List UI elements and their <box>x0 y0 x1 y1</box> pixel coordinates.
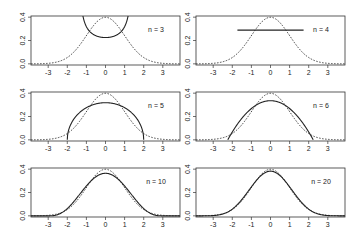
x-tick-label: 1 <box>288 69 292 76</box>
x-tick-label: -3 <box>210 221 216 228</box>
x-tick-label: 2 <box>307 69 311 76</box>
x-tick-label: 3 <box>326 145 330 152</box>
y-tick-label: 0.2 <box>184 36 191 46</box>
x-tick-label: -1 <box>248 69 254 76</box>
x-tick-label: 3 <box>326 221 330 228</box>
y-tick-label: 0.4 <box>19 164 26 174</box>
normal-density-curve <box>31 17 180 64</box>
plot-frame <box>31 92 180 141</box>
panel-label: n = 4 <box>313 26 329 33</box>
x-tick-label: -1 <box>248 221 254 228</box>
figure: -3-2-101230.00.20.4n = 3-3-2-101230.00.2… <box>0 0 363 239</box>
x-tick-label: 3 <box>161 69 165 76</box>
panel-n-4: -3-2-101230.00.20.4n = 4 <box>184 12 345 76</box>
panel-label: n = 3 <box>148 26 164 33</box>
plot-frame <box>196 168 345 217</box>
x-tick-label: 0 <box>269 145 273 152</box>
y-tick-label: 0.2 <box>19 36 26 46</box>
y-tick-label: 0.2 <box>19 188 26 198</box>
normal-density-curve <box>196 169 345 216</box>
y-tick-label: 0.4 <box>19 12 26 22</box>
x-tick-label: 2 <box>307 145 311 152</box>
x-tick-label: 2 <box>142 145 146 152</box>
x-tick-label: -2 <box>64 145 70 152</box>
x-tick-label: 0 <box>104 69 108 76</box>
panel-n-10: -3-2-101230.00.20.4n = 10 <box>19 164 180 228</box>
x-tick-label: 0 <box>269 221 273 228</box>
y-tick-label: 0.4 <box>184 12 191 22</box>
x-tick-label: -3 <box>45 221 51 228</box>
x-tick-label: 1 <box>123 145 127 152</box>
x-tick-label: 1 <box>123 69 127 76</box>
plot-frame <box>196 16 345 65</box>
plot-frame <box>31 16 180 65</box>
panel-label: n = 10 <box>146 178 166 185</box>
x-tick-label: 0 <box>104 145 108 152</box>
x-tick-label: 2 <box>142 69 146 76</box>
x-tick-label: 2 <box>142 221 146 228</box>
y-tick-label: 0.0 <box>19 211 26 221</box>
x-tick-label: -3 <box>210 69 216 76</box>
y-tick-label: 0.4 <box>184 88 191 98</box>
panel-n-3: -3-2-101230.00.20.4n = 3 <box>19 6 180 77</box>
normal-density-curve <box>31 93 180 140</box>
x-tick-label: -1 <box>83 69 89 76</box>
panel-label: n = 5 <box>148 102 164 109</box>
x-tick-label: 3 <box>161 221 165 228</box>
y-tick-label: 0.0 <box>19 135 26 145</box>
x-tick-label: -2 <box>64 221 70 228</box>
plot-frame <box>196 92 345 141</box>
x-tick-label: -2 <box>229 221 235 228</box>
y-tick-label: 0.0 <box>184 211 191 221</box>
x-tick-label: 0 <box>269 69 273 76</box>
panel-label: n = 20 <box>311 178 331 185</box>
exact-density-curve <box>78 6 132 38</box>
panel-label: n = 6 <box>313 102 329 109</box>
x-tick-label: -1 <box>248 145 254 152</box>
y-tick-label: 0.0 <box>19 59 26 69</box>
x-tick-label: 2 <box>307 221 311 228</box>
y-tick-label: 0.4 <box>184 164 191 174</box>
x-tick-label: -3 <box>45 69 51 76</box>
y-tick-label: 0.2 <box>19 112 26 122</box>
normal-density-curve <box>31 169 180 216</box>
normal-density-curve <box>196 17 345 64</box>
x-tick-label: 1 <box>288 145 292 152</box>
y-tick-label: 0.4 <box>19 88 26 98</box>
exact-density-curve <box>228 101 313 140</box>
x-tick-label: -2 <box>229 69 235 76</box>
panel-n-20: -3-2-101230.00.20.4n = 20 <box>184 164 345 228</box>
x-tick-label: -2 <box>229 145 235 152</box>
y-tick-label: 0.2 <box>184 188 191 198</box>
panel-n-6: -3-2-101230.00.20.4n = 6 <box>184 88 345 152</box>
x-tick-label: -2 <box>64 69 70 76</box>
x-tick-label: -3 <box>210 145 216 152</box>
panel-n-5: -3-2-101230.00.20.4n = 5 <box>19 88 180 152</box>
x-tick-label: 0 <box>104 221 108 228</box>
x-tick-label: 3 <box>161 145 165 152</box>
y-tick-label: 0.0 <box>184 59 191 69</box>
x-tick-label: 1 <box>123 221 127 228</box>
x-tick-label: 3 <box>326 69 330 76</box>
y-tick-label: 0.0 <box>184 135 191 145</box>
exact-density-curve <box>67 103 143 140</box>
x-tick-label: -1 <box>83 221 89 228</box>
y-tick-label: 0.2 <box>184 112 191 122</box>
x-tick-label: 1 <box>288 221 292 228</box>
x-tick-label: -1 <box>83 145 89 152</box>
x-tick-label: -3 <box>45 145 51 152</box>
plot-frame <box>31 168 180 217</box>
